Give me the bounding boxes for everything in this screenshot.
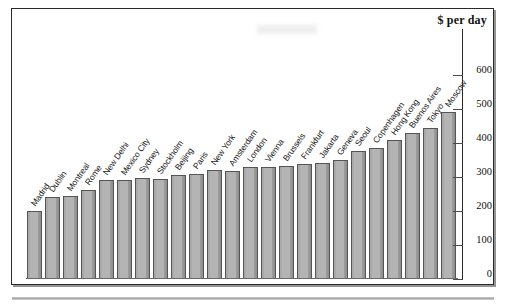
bar xyxy=(225,171,240,279)
bar xyxy=(189,174,204,279)
bar xyxy=(99,180,114,279)
bar xyxy=(261,167,276,279)
bar xyxy=(405,133,420,279)
bar xyxy=(63,196,78,279)
bar xyxy=(27,211,42,279)
bar xyxy=(45,197,60,279)
bar-category-label: Moscow xyxy=(443,79,469,110)
bar-category-label: Seoul xyxy=(353,125,373,148)
y-axis-tick xyxy=(453,75,463,76)
y-axis-tick xyxy=(453,109,463,110)
bar xyxy=(369,148,384,279)
y-axis-tick xyxy=(453,211,463,212)
y-axis-tick xyxy=(453,177,463,178)
bar xyxy=(441,112,456,279)
y-axis-tick-label: 600 xyxy=(466,65,492,76)
bar xyxy=(423,128,438,279)
y-axis-tick xyxy=(453,245,463,246)
bar xyxy=(333,160,348,279)
bar-series: MadridDublinMontrealRomeNew DelhiMexico … xyxy=(26,29,458,279)
bar xyxy=(207,170,222,279)
plot-area: MadridDublinMontrealRomeNew DelhiMexico … xyxy=(26,29,458,279)
y-axis-tick xyxy=(453,279,463,280)
y-axis-tick-label: 400 xyxy=(466,133,492,144)
bar xyxy=(135,178,150,279)
bar xyxy=(81,190,96,279)
x-axis-baseline xyxy=(26,278,458,279)
axis-title: $ per day xyxy=(437,13,487,28)
chart-frame: $ per day MadridDublinMontrealRomeNew De… xyxy=(11,8,494,285)
footer-divider xyxy=(12,297,494,300)
y-axis-tick-label: 200 xyxy=(466,201,492,212)
bar xyxy=(153,179,168,279)
y-axis: 0100200300400500600 xyxy=(462,29,463,279)
bar xyxy=(351,151,366,279)
bar xyxy=(279,166,294,279)
bar xyxy=(387,140,402,279)
y-axis-tick xyxy=(453,143,463,144)
bar xyxy=(117,180,132,279)
bar-category-label: Dublin xyxy=(47,169,69,194)
bar xyxy=(315,163,330,279)
y-axis-tick-label: 300 xyxy=(466,167,492,178)
y-axis-tick-label: 100 xyxy=(466,235,492,246)
y-axis-tick-label: 500 xyxy=(466,99,492,110)
y-axis-tick-label: 0 xyxy=(466,269,492,280)
bar xyxy=(171,175,186,279)
bar xyxy=(297,164,312,279)
bar xyxy=(243,167,258,279)
